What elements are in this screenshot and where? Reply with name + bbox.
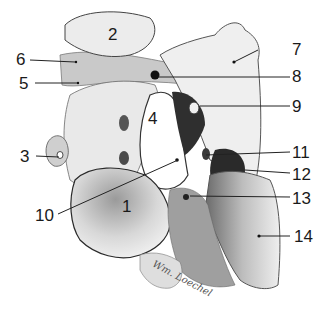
shadow-left-lower	[119, 151, 129, 165]
label-12: 12	[292, 166, 311, 183]
label-7: 7	[292, 41, 301, 58]
point-14	[257, 234, 260, 237]
label-5: 5	[19, 75, 28, 92]
label-14: 14	[294, 228, 313, 245]
foramen-13	[183, 194, 189, 200]
foramen-8	[151, 71, 160, 80]
label-10: 10	[35, 207, 54, 224]
label-9: 9	[292, 98, 301, 115]
point-5	[77, 82, 79, 84]
label-13: 13	[292, 190, 311, 207]
shadow-left	[119, 115, 129, 131]
foramen-9	[189, 102, 199, 114]
label-2: 2	[108, 26, 117, 43]
label-8: 8	[292, 68, 301, 85]
foramen-11	[202, 148, 210, 160]
label-4: 4	[148, 110, 157, 127]
point-7	[232, 60, 235, 63]
anatomical-figure: 1 2 3 4 5 6 7 8 9 10 11 12 13 14 Wm. Loe…	[0, 0, 328, 323]
label-3: 3	[20, 148, 29, 165]
label-11: 11	[292, 144, 310, 161]
point-6	[75, 61, 77, 63]
label-1: 1	[122, 198, 131, 215]
label-6: 6	[16, 51, 25, 68]
bone-3	[46, 136, 68, 167]
